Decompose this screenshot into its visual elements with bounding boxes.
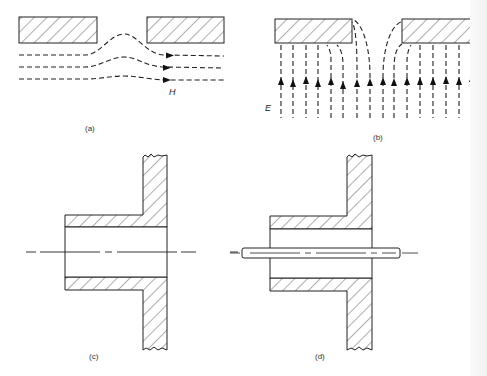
e-field-symbol: E	[265, 103, 272, 113]
arrow-icon	[166, 53, 174, 59]
page-edge-shadow	[470, 0, 487, 376]
panel-a-caption: (a)	[85, 124, 95, 133]
arrow-icon	[443, 76, 449, 84]
arrow-icon	[278, 77, 284, 85]
arrow-icon	[354, 79, 360, 87]
figure-canvas: H (a)	[0, 0, 487, 376]
panel-d-caption: (d)	[315, 352, 325, 361]
arrow-icon	[430, 77, 436, 85]
h-field-line-3	[19, 76, 224, 80]
upper-wall-section	[270, 154, 372, 229]
arrow-icon	[303, 76, 309, 84]
slotted-plate-right	[147, 17, 224, 43]
arrow-icon	[163, 77, 171, 83]
panel-a: H (a)	[19, 17, 224, 133]
lower-wall-section	[65, 277, 167, 350]
arrow-icon	[163, 65, 171, 71]
arrow-icon	[290, 79, 296, 87]
panel-b-caption: (b)	[373, 133, 383, 142]
arrow-icon	[391, 78, 397, 86]
arrow-icon	[404, 77, 410, 85]
slotted-plate-left	[19, 17, 97, 43]
plate-right	[402, 19, 480, 43]
h-field-arrows	[163, 53, 174, 84]
arrow-icon	[367, 78, 373, 86]
panel-b: E (b)	[265, 19, 480, 142]
lower-wall-section	[270, 278, 372, 350]
panel-d: (d)	[230, 154, 418, 361]
arrow-icon	[417, 77, 423, 85]
upper-wall-section	[65, 154, 167, 227]
plate-left	[275, 19, 352, 43]
panel-c: (c)	[26, 154, 238, 361]
arrow-icon	[340, 81, 346, 89]
arrow-icon	[315, 79, 321, 87]
arrow-icon	[380, 77, 386, 85]
panel-c-caption: (c)	[89, 352, 99, 361]
arrow-icon	[456, 77, 462, 85]
h-field-line-2	[19, 57, 224, 68]
arrow-icon	[328, 77, 334, 85]
h-field-symbol: H	[169, 87, 176, 97]
